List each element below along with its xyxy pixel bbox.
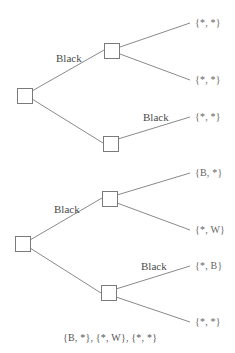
bottom-tree-caption: {B, *}, {*, W}, {*, *}	[63, 332, 157, 344]
top-lower-node	[104, 137, 119, 152]
top-leaf-3: {*, *}	[195, 111, 221, 123]
edge-bottom-root-to-lower	[30, 248, 101, 293]
top-leaf-1: {*, *}	[195, 17, 221, 29]
bottom-edge-label-black-2: Black	[141, 260, 167, 272]
bottom-edge-label-black-1: Black	[54, 203, 80, 215]
bottom-lower-node	[102, 286, 117, 301]
top-edge-label-black-2: Black	[143, 111, 169, 123]
top-root-node	[18, 89, 33, 104]
edge-bottom-upper-to-leaf1	[117, 173, 190, 195]
top-leaf-2: {*, *}	[195, 74, 221, 86]
bottom-leaf-1: {B, *}	[195, 167, 222, 179]
bottom-leaf-3: {*, B}	[195, 260, 222, 272]
bottom-upper-node	[103, 192, 118, 207]
edge-bottom-upper-to-leaf2	[117, 203, 190, 230]
top-edge-label-black-1: Black	[56, 52, 82, 64]
top-upper-node	[105, 44, 120, 59]
edge-top-root-to-lower	[32, 99, 103, 143]
bottom-leaf-4: {*, *}	[195, 316, 221, 328]
edge-bottom-lower-to-leaf4	[116, 297, 190, 322]
bottom-root-node	[16, 237, 31, 252]
edge-top-upper-to-leaf1	[120, 23, 190, 47]
bottom-leaf-2: {*, W}	[195, 224, 225, 236]
edge-top-upper-to-leaf2	[120, 54, 190, 80]
